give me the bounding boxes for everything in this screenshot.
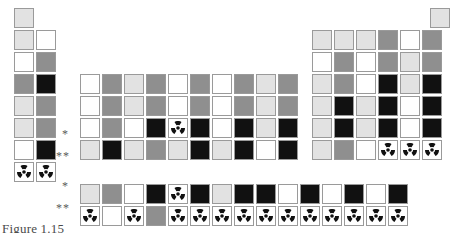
element-cell-radioactive: [322, 206, 342, 226]
element-cell: [312, 140, 332, 160]
element-cell: [366, 184, 386, 204]
radioactive-trefoil-icon: [425, 143, 439, 157]
radioactive-trefoil-icon: [193, 209, 207, 223]
element-cell: [400, 52, 420, 72]
element-cell: [430, 8, 450, 28]
element-cell: [36, 30, 56, 50]
element-cell: [388, 184, 408, 204]
element-cell: [36, 74, 56, 94]
element-cell: [278, 118, 298, 138]
series-marker-actinide-row: **: [56, 198, 70, 218]
element-cell-radioactive: [190, 206, 210, 226]
element-cell: [312, 74, 332, 94]
element-cell: [124, 184, 144, 204]
element-cell: [14, 52, 34, 72]
element-cell: [378, 30, 398, 50]
radioactive-trefoil-icon: [369, 209, 383, 223]
element-cell: [400, 96, 420, 116]
element-cell: [80, 140, 100, 160]
element-cell: [356, 30, 376, 50]
element-cell: [422, 52, 442, 72]
element-cell: [124, 96, 144, 116]
element-cell: [312, 118, 332, 138]
element-cell: [146, 140, 166, 160]
element-cell: [378, 52, 398, 72]
element-cell: [14, 118, 34, 138]
element-cell: [14, 74, 34, 94]
element-cell: [190, 184, 210, 204]
radioactive-trefoil-icon: [171, 187, 185, 201]
element-cell: [102, 74, 122, 94]
element-cell: [234, 184, 254, 204]
element-cell: [356, 52, 376, 72]
element-cell: [400, 118, 420, 138]
element-cell: [124, 118, 144, 138]
element-cell: [256, 140, 276, 160]
series-marker-lanthanide-row: *: [62, 176, 69, 196]
element-cell: [36, 96, 56, 116]
element-cell: [312, 52, 332, 72]
element-cell: [212, 184, 232, 204]
element-cell: [422, 74, 442, 94]
series-marker-actinide-inline: **: [56, 146, 70, 166]
element-cell: [334, 52, 354, 72]
element-cell: [334, 118, 354, 138]
element-cell-radioactive: [344, 206, 364, 226]
element-cell: [102, 184, 122, 204]
element-cell: [102, 96, 122, 116]
element-cell: [356, 96, 376, 116]
element-cell-radioactive: [168, 118, 188, 138]
element-cell: [256, 118, 276, 138]
element-cell: [334, 140, 354, 160]
periodic-table-figure: ******: [0, 0, 459, 233]
element-cell: [212, 96, 232, 116]
element-cell: [80, 184, 100, 204]
element-cell: [400, 74, 420, 94]
element-cell: [168, 140, 188, 160]
element-cell: [278, 96, 298, 116]
element-cell: [36, 140, 56, 160]
series-marker-lanthanide-inline: *: [62, 124, 69, 144]
radioactive-trefoil-icon: [347, 209, 361, 223]
element-cell-radioactive: [36, 162, 56, 182]
element-cell: [278, 184, 298, 204]
element-cell: [422, 118, 442, 138]
element-cell: [212, 74, 232, 94]
radioactive-trefoil-icon: [403, 143, 417, 157]
element-cell: [256, 184, 276, 204]
radioactive-trefoil-icon: [171, 121, 185, 135]
radioactive-trefoil-icon: [325, 209, 339, 223]
element-cell: [234, 140, 254, 160]
element-cell: [14, 30, 34, 50]
element-cell: [378, 96, 398, 116]
element-cell-radioactive: [168, 206, 188, 226]
radioactive-trefoil-icon: [281, 209, 295, 223]
element-cell: [146, 206, 166, 226]
element-cell: [124, 74, 144, 94]
element-cell: [168, 74, 188, 94]
element-cell-radioactive: [212, 206, 232, 226]
element-cell: [168, 96, 188, 116]
radioactive-trefoil-icon: [259, 209, 273, 223]
element-cell: [14, 96, 34, 116]
element-cell: [312, 30, 332, 50]
element-cell: [102, 140, 122, 160]
element-cell: [334, 74, 354, 94]
element-cell: [146, 184, 166, 204]
radioactive-trefoil-icon: [215, 209, 229, 223]
element-cell: [146, 118, 166, 138]
element-cell: [190, 140, 210, 160]
element-cell-radioactive: [278, 206, 298, 226]
radioactive-trefoil-icon: [83, 209, 97, 223]
element-cell: [256, 96, 276, 116]
radioactive-trefoil-icon: [237, 209, 251, 223]
element-cell: [300, 184, 320, 204]
element-cell: [190, 74, 210, 94]
element-cell: [80, 74, 100, 94]
element-cell: [102, 118, 122, 138]
element-cell: [80, 118, 100, 138]
element-cell: [80, 96, 100, 116]
element-cell: [36, 52, 56, 72]
radioactive-trefoil-icon: [17, 165, 31, 179]
element-cell-radioactive: [378, 140, 398, 160]
